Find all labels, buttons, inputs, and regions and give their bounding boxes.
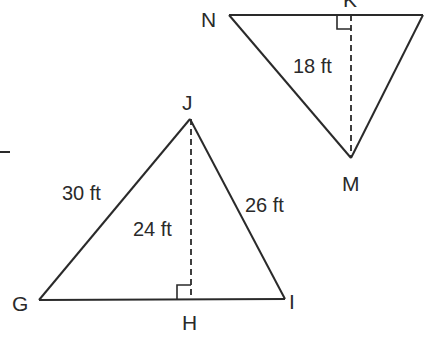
right-angle-marker-k — [337, 15, 351, 29]
vertex-label-m: M — [342, 172, 360, 195]
side-label-30: 30 ft — [62, 182, 101, 204]
side-gj — [39, 119, 190, 300]
side-nm — [229, 15, 351, 158]
altitude-label-24: 24 ft — [133, 218, 172, 240]
vertex-label-i: I — [289, 290, 295, 313]
side-gi — [39, 299, 285, 300]
triangle-gji: J G I H 30 ft 26 ft 24 ft — [12, 91, 295, 334]
vertex-label-k: K — [343, 0, 357, 11]
vertex-label-n: N — [201, 8, 216, 31]
side-label-26: 26 ft — [245, 194, 284, 216]
vertex-label-g: G — [12, 292, 28, 315]
vertex-label-j: J — [182, 91, 193, 114]
vertex-label-h: H — [182, 311, 197, 334]
triangle-nkm: N K M 18 ft — [201, 0, 423, 195]
side-right-m — [351, 15, 423, 158]
altitude-label-18: 18 ft — [293, 55, 332, 77]
geometry-diagram: N K M 18 ft J G I H 30 ft 26 ft 24 ft — [0, 0, 424, 341]
right-angle-marker-h — [177, 285, 191, 299]
